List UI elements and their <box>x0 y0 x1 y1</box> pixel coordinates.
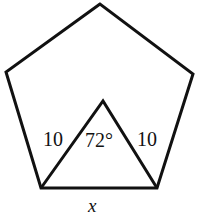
apex-angle-label: 72° <box>85 129 113 151</box>
pentagon-triangle-diagram: 10 72° 10 x <box>0 0 201 217</box>
left-side-label: 10 <box>43 128 63 150</box>
pentagon-outline <box>6 4 193 188</box>
right-side-label: 10 <box>137 128 157 150</box>
base-label-x: x <box>87 195 97 216</box>
